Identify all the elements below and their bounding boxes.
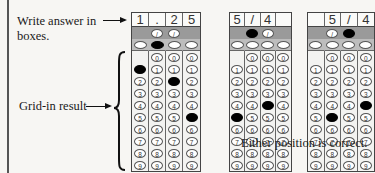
digit-bubble[interactable]: 5 bbox=[326, 113, 338, 122]
digit-bubble[interactable]: 3 bbox=[326, 89, 338, 98]
answer-box[interactable]: 2 bbox=[166, 13, 183, 27]
digit-bubble[interactable]: 5 bbox=[310, 113, 322, 122]
digit-bubble[interactable]: 5 bbox=[277, 113, 289, 122]
decimal-bubble[interactable] bbox=[326, 41, 339, 49]
digit-bubble[interactable]: 0 bbox=[360, 53, 372, 62]
fraction-bubble[interactable]: / bbox=[246, 29, 258, 38]
digit-bubble[interactable]: 4 bbox=[246, 101, 258, 110]
digit-bubble[interactable]: 1 bbox=[151, 65, 163, 74]
digit-bubble[interactable]: 3 bbox=[168, 89, 180, 98]
digit-bubble[interactable]: 9 bbox=[360, 161, 372, 170]
digit-bubble[interactable]: 6 bbox=[310, 125, 322, 134]
digit-bubble[interactable]: 3 bbox=[262, 89, 274, 98]
digit-bubble[interactable]: 4 bbox=[277, 101, 289, 110]
digit-bubble[interactable]: 6 bbox=[168, 125, 180, 134]
digit-bubble[interactable]: 9 bbox=[343, 161, 355, 170]
digit-bubble[interactable]: 1 bbox=[277, 65, 289, 74]
digit-bubble[interactable]: 0 bbox=[151, 53, 163, 62]
answer-box[interactable]: 5 bbox=[230, 13, 245, 27]
decimal-bubble[interactable] bbox=[277, 41, 290, 49]
answer-box[interactable]: 5 bbox=[325, 13, 342, 27]
digit-bubble[interactable]: 5 bbox=[262, 113, 274, 122]
answer-box[interactable]: / bbox=[341, 13, 358, 27]
digit-bubble[interactable]: 6 bbox=[360, 125, 372, 134]
decimal-bubble[interactable] bbox=[309, 41, 322, 49]
answer-box[interactable]: 4 bbox=[358, 13, 375, 27]
digit-bubble[interactable]: 8 bbox=[168, 149, 180, 158]
digit-bubble[interactable]: 4 bbox=[168, 101, 180, 110]
digit-bubble[interactable]: 2 bbox=[310, 77, 322, 86]
digit-bubble[interactable]: 3 bbox=[151, 89, 163, 98]
digit-bubble[interactable]: 5 bbox=[186, 113, 198, 122]
digit-bubble[interactable]: 0 bbox=[262, 53, 274, 62]
digit-bubble[interactable]: 9 bbox=[246, 161, 258, 170]
fraction-bubble[interactable]: / bbox=[151, 29, 163, 38]
fraction-bubble[interactable]: / bbox=[262, 29, 274, 38]
digit-bubble[interactable]: 6 bbox=[231, 125, 243, 134]
digit-bubble[interactable]: 2 bbox=[326, 77, 338, 86]
answer-box[interactable]: 4 bbox=[261, 13, 276, 27]
digit-bubble[interactable]: 2 bbox=[246, 77, 258, 86]
digit-bubble[interactable]: 3 bbox=[186, 89, 198, 98]
digit-bubble[interactable]: 0 bbox=[343, 53, 355, 62]
digit-bubble[interactable]: 4 bbox=[186, 101, 198, 110]
digit-bubble[interactable]: 2 bbox=[360, 77, 372, 86]
fraction-bubble[interactable]: / bbox=[343, 29, 355, 38]
digit-bubble[interactable]: 0 bbox=[168, 53, 180, 62]
digit-bubble[interactable]: 5 bbox=[151, 113, 163, 122]
digit-bubble[interactable]: 2 bbox=[168, 77, 180, 86]
decimal-bubble[interactable] bbox=[342, 41, 355, 49]
answer-box[interactable] bbox=[308, 13, 325, 27]
digit-bubble[interactable]: 2 bbox=[262, 77, 274, 86]
digit-bubble[interactable]: 9 bbox=[326, 161, 338, 170]
digit-bubble[interactable]: 1 bbox=[360, 65, 372, 74]
digit-bubble[interactable]: 9 bbox=[151, 161, 163, 170]
digit-bubble[interactable]: 4 bbox=[231, 101, 243, 110]
answer-box[interactable]: 5 bbox=[183, 13, 200, 27]
digit-bubble[interactable]: 9 bbox=[277, 161, 289, 170]
digit-bubble[interactable]: 9 bbox=[186, 161, 198, 170]
digit-bubble[interactable]: 4 bbox=[262, 101, 274, 110]
digit-bubble[interactable]: 4 bbox=[134, 101, 146, 110]
digit-bubble[interactable]: 4 bbox=[151, 101, 163, 110]
digit-bubble[interactable]: 1 bbox=[343, 65, 355, 74]
digit-bubble[interactable]: 0 bbox=[246, 53, 258, 62]
digit-bubble[interactable]: 2 bbox=[343, 77, 355, 86]
digit-bubble[interactable]: 3 bbox=[343, 89, 355, 98]
digit-bubble[interactable]: 1 bbox=[310, 65, 322, 74]
digit-bubble[interactable]: 3 bbox=[310, 89, 322, 98]
decimal-bubble[interactable] bbox=[246, 41, 259, 49]
digit-bubble[interactable]: 3 bbox=[360, 89, 372, 98]
digit-bubble[interactable]: 5 bbox=[343, 113, 355, 122]
digit-bubble[interactable]: 7 bbox=[151, 137, 163, 146]
digit-bubble[interactable]: 2 bbox=[277, 77, 289, 86]
digit-bubble[interactable]: 9 bbox=[262, 161, 274, 170]
answer-box[interactable]: . bbox=[149, 13, 166, 27]
digit-bubble[interactable]: 2 bbox=[186, 77, 198, 86]
decimal-bubble[interactable] bbox=[151, 41, 164, 49]
digit-bubble[interactable]: 2 bbox=[231, 77, 243, 86]
digit-bubble[interactable]: 0 bbox=[277, 53, 289, 62]
digit-bubble[interactable]: 9 bbox=[134, 161, 146, 170]
digit-bubble[interactable]: 0 bbox=[186, 53, 198, 62]
decimal-bubble[interactable] bbox=[261, 41, 274, 49]
answer-box[interactable] bbox=[276, 13, 291, 27]
digit-bubble[interactable]: 6 bbox=[277, 125, 289, 134]
digit-bubble[interactable]: 9 bbox=[231, 161, 243, 170]
digit-bubble[interactable]: 9 bbox=[310, 161, 322, 170]
digit-bubble[interactable]: 6 bbox=[326, 125, 338, 134]
digit-bubble[interactable]: 3 bbox=[277, 89, 289, 98]
digit-bubble[interactable]: 7 bbox=[186, 137, 198, 146]
digit-bubble[interactable]: 8 bbox=[134, 149, 146, 158]
digit-bubble[interactable]: 1 bbox=[246, 65, 258, 74]
digit-bubble[interactable]: 6 bbox=[186, 125, 198, 134]
decimal-bubble[interactable] bbox=[359, 41, 372, 49]
digit-bubble[interactable]: 1 bbox=[186, 65, 198, 74]
digit-bubble[interactable]: 4 bbox=[310, 101, 322, 110]
digit-bubble[interactable]: 1 bbox=[262, 65, 274, 74]
digit-bubble[interactable]: 1 bbox=[231, 65, 243, 74]
digit-bubble[interactable]: 5 bbox=[134, 113, 146, 122]
digit-bubble[interactable]: 4 bbox=[343, 101, 355, 110]
fraction-bubble[interactable]: / bbox=[326, 29, 338, 38]
digit-bubble[interactable]: 2 bbox=[151, 77, 163, 86]
